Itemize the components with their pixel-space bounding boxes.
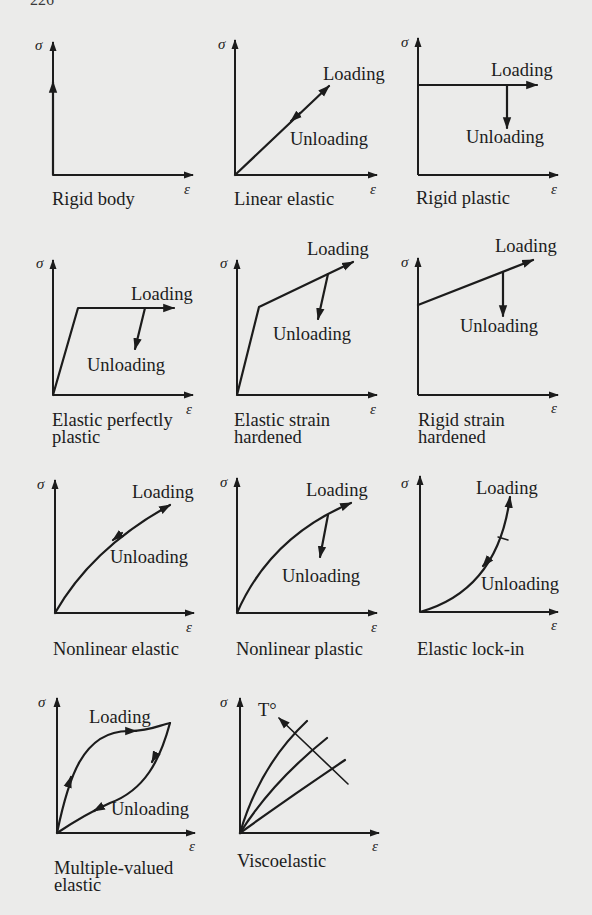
caption: Nonlinear elastic — [53, 639, 179, 659]
caption-line-2: elastic — [54, 875, 101, 895]
unloading-label: Unloading — [481, 574, 559, 594]
temperature-arrow — [279, 718, 348, 784]
x-axis-label: ε — [184, 181, 190, 197]
caption: Rigid body — [52, 189, 135, 209]
temperature-label: T° — [258, 700, 277, 720]
unloading-arrow-2 — [94, 806, 103, 811]
unloading-label: Unloading — [466, 127, 544, 147]
panel-linear-elastic: σ ε Loading Unloading Linear elastic — [218, 36, 385, 209]
loading-path — [420, 497, 510, 612]
x-axis-label: ε — [551, 400, 557, 416]
y-axis-label: σ — [218, 36, 226, 52]
unloading-label: Unloading — [111, 799, 189, 819]
x-axis-label: ε — [370, 401, 376, 417]
x-axis-label: ε — [186, 619, 192, 635]
y-axis-label: σ — [401, 254, 409, 270]
loading-label: Loading — [491, 60, 553, 80]
unloading-arrow — [320, 515, 328, 557]
caption: Elastic lock-in — [417, 639, 524, 659]
panel-elastic-perfectly-plastic: σ ε Loading Unloading Elastic perfectly … — [36, 255, 193, 447]
loading-label: Loading — [495, 236, 557, 256]
y-axis-label: σ — [220, 255, 228, 271]
y-axis-label: σ — [36, 255, 44, 271]
stress-strain-diagram-grid: σ ε Rigid body σ ε Loading Unloading Lin… — [0, 0, 592, 915]
panel-rigid-plastic: σ ε Loading Unloading Rigid plastic — [401, 34, 558, 208]
unloading-label: Unloading — [460, 316, 538, 336]
panel-nonlinear-plastic: σ ε Loading Unloading Nonlinear plastic — [220, 474, 377, 659]
caption-line-2: plastic — [52, 427, 100, 447]
panel-elastic-strain-hardened: σ ε Loading Unloading Elastic strain har… — [220, 239, 377, 447]
y-axis-label: σ — [220, 474, 228, 490]
y-axis-label: σ — [220, 694, 228, 710]
y-axis-label: σ — [35, 37, 43, 53]
unloading-label: Unloading — [282, 566, 360, 586]
y-axis-label: σ — [401, 475, 409, 491]
panel-rigid-body: σ ε Rigid body — [35, 37, 193, 209]
x-axis-label: ε — [186, 401, 192, 417]
x-axis-label: ε — [189, 838, 195, 854]
loading-path — [53, 308, 174, 395]
loading-label: Loading — [306, 480, 368, 500]
x-axis-label: ε — [370, 181, 376, 197]
panel-multiple-valued-elastic: σ ε Loading Unloading Multiple-valued el… — [38, 694, 195, 895]
x-axis-label: ε — [551, 617, 557, 633]
unloading-arrow — [291, 113, 300, 121]
x-axis-label: ε — [372, 838, 378, 854]
x-axis-label: ε — [371, 619, 377, 635]
unloading-label: Unloading — [87, 355, 165, 375]
caption-line-2: hardened — [418, 427, 487, 447]
y-axis-label: σ — [38, 694, 46, 710]
unloading-label: Unloading — [110, 547, 188, 567]
loading-path — [237, 503, 351, 613]
loading-label: Loading — [132, 482, 194, 502]
axes: σ ε — [35, 37, 193, 197]
panel-nonlinear-elastic: σ ε Loading Unloading Nonlinear elastic — [37, 476, 194, 659]
loading-label: Loading — [323, 64, 385, 84]
unloading-label: Unloading — [290, 129, 368, 149]
panel-viscoelastic: σ ε T° Viscoelastic — [220, 694, 379, 871]
loading-label: Loading — [307, 239, 369, 259]
caption-line-2: hardened — [234, 427, 303, 447]
unloading-arrow — [318, 274, 328, 319]
y-axis-label: σ — [401, 34, 409, 50]
unloading-label: Unloading — [273, 324, 351, 344]
loading-label: Loading — [131, 284, 193, 304]
curve-low — [240, 760, 345, 833]
unloading-arrow — [135, 308, 145, 349]
x-axis-label: ε — [551, 181, 557, 197]
loading-label: Loading — [89, 707, 151, 727]
caption: Nonlinear plastic — [236, 639, 363, 659]
caption: Rigid plastic — [416, 188, 510, 208]
loading-path — [418, 260, 533, 305]
panel-elastic-lock-in: σ ε Loading Unloading Elastic lock-in — [401, 475, 559, 659]
loading-label: Loading — [476, 478, 538, 498]
y-axis-label: σ — [37, 476, 45, 492]
caption: Linear elastic — [234, 189, 334, 209]
panel-rigid-strain-hardened: σ ε Loading Unloading Rigid strain harde… — [401, 236, 558, 447]
caption: Viscoelastic — [237, 851, 326, 871]
